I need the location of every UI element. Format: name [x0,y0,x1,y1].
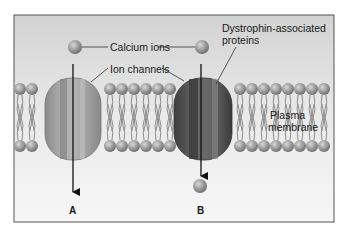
label-plasma: Plasma [270,110,305,121]
label-panel-b: B [197,205,204,216]
label-ion-channels: Ion channels [110,64,170,75]
label-dystrophin-line1: Dystrophin-associated [222,23,326,34]
calcium-ion-b-top [195,40,209,54]
label-panel-a: A [69,205,76,216]
ion-channel-b [174,78,232,160]
calcium-ion-a-top [68,40,82,54]
label-dystrophin-line2: proteins [222,35,259,46]
label-calcium-ions: Calcium ions [110,42,170,53]
label-membrane: membrane [268,122,318,133]
calcium-ion-b-bottom [193,179,207,193]
